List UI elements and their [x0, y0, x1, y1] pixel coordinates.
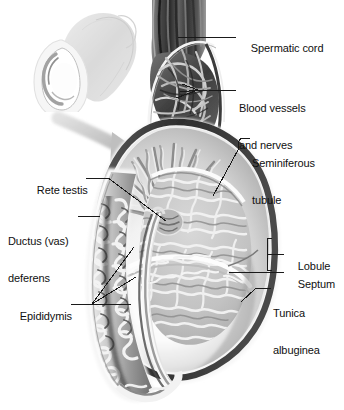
label-spermatic-cord: Spermatic cord	[239, 30, 323, 67]
label-tunica-albuginea-line1: Tunica	[273, 307, 320, 319]
label-spermatic-cord-text: Spermatic cord	[251, 42, 324, 54]
label-tunica-albuginea: Tunica albuginea	[273, 282, 320, 381]
label-ductus-vas-deferens: Ductus (vas) deferens	[8, 210, 69, 309]
label-blood-vessels-line1: Blood vessels	[239, 102, 306, 114]
label-epididymis-text: Epididymis	[20, 310, 72, 322]
label-seminiferous-tubule-line1: Seminiferous	[252, 157, 315, 169]
label-epididymis: Epididymis	[8, 298, 72, 335]
label-rete-testis-text: Rete testis	[37, 184, 88, 196]
label-tunica-albuginea-line2: albuginea	[273, 344, 320, 356]
testis-anatomy-figure: Spermatic cord Blood vessels and nerves …	[0, 0, 344, 410]
label-seminiferous-tubule: Seminiferous tubule	[252, 132, 315, 231]
label-ductus-vas-deferens-line1: Ductus (vas)	[8, 235, 69, 247]
label-seminiferous-tubule-line2: tubule	[252, 194, 315, 206]
label-rete-testis: Rete testis	[25, 172, 88, 209]
label-ductus-vas-deferens-line2: deferens	[8, 272, 69, 284]
